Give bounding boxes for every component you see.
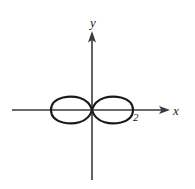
x-intercept-label-2: 2 xyxy=(133,111,139,123)
math-figure: x y 2 xyxy=(0,0,195,189)
y-axis-label: y xyxy=(88,15,96,30)
x-axis-label: x xyxy=(172,103,179,118)
figure-canvas: x y 2 xyxy=(0,0,195,189)
